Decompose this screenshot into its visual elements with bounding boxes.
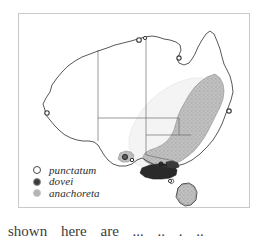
point-record-punctatum: [168, 179, 171, 182]
point-record-punctatum: [143, 36, 146, 39]
point-record-punctatum: [227, 109, 231, 113]
open-circle-icon: [33, 166, 41, 174]
caption-strip: shown here are ... .. . ..: [0, 225, 269, 241]
point-record-punctatum: [137, 38, 142, 43]
legend-label-dovei: dovei: [49, 176, 73, 187]
point-record-dovei: [122, 154, 127, 159]
filled-circle-icon: [33, 178, 41, 186]
point-record-punctatum: [45, 111, 49, 115]
point-record-dovei: [159, 162, 163, 166]
legend-item-dovei: dovei: [33, 176, 153, 188]
point-record-punctatum: [177, 56, 181, 60]
legend-label-anachoreta: anachoreta: [49, 188, 100, 199]
map-legend: punctatum dovei anachoreta: [33, 165, 153, 200]
legend-label-punctatum: punctatum: [49, 165, 96, 176]
light-filled-circle-icon: [33, 189, 41, 197]
figure-frame: punctatum dovei anachoreta: [18, 13, 250, 208]
caption-text: shown here are ... .. . ..: [8, 225, 204, 239]
point-record-dovei: [130, 158, 133, 161]
legend-item-anachoreta: anachoreta: [33, 188, 153, 200]
